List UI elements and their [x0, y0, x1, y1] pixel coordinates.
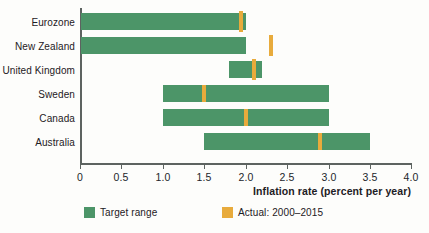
x-tick-label-4-0: 4.0 [391, 171, 429, 183]
marker-actual-sweden [202, 85, 206, 102]
x-tick-3-5 [370, 163, 371, 169]
plot-area: 0 0.5 1.0 1.5 2.0 2.5 3.0 3.5 4.0 Eurozo… [0, 0, 429, 233]
bar-new-zealand [81, 37, 246, 54]
legend-item-target-range: Target range [84, 207, 157, 218]
x-axis-title: Inflation rate (percent per year) [0, 185, 429, 197]
category-label-united-kingdom: United Kingdom [0, 65, 75, 76]
x-tick-label-0-5: 0.5 [101, 171, 141, 183]
legend-swatch-orange-icon [222, 207, 233, 218]
inflation-target-chart: 0 0.5 1.0 1.5 2.0 2.5 3.0 3.5 4.0 Eurozo… [0, 0, 429, 233]
x-tick-0-5 [121, 163, 122, 169]
x-tick-label-1-5: 1.5 [184, 171, 224, 183]
marker-actual-new-zealand [269, 35, 273, 56]
x-tick-2-0 [246, 163, 247, 169]
legend-label-actual: Actual: 2000–2015 [238, 207, 323, 218]
category-label-canada: Canada [0, 113, 75, 124]
category-label-new-zealand: New Zealand [0, 41, 75, 52]
category-label-sweden: Sweden [0, 89, 75, 100]
x-tick-label-2-5: 2.5 [267, 171, 307, 183]
x-tick-1-5 [204, 163, 205, 169]
category-label-eurozone: Eurozone [0, 17, 75, 28]
y-axis-line [80, 8, 82, 163]
x-tick-2-5 [287, 163, 288, 169]
marker-actual-eurozone [239, 11, 243, 32]
x-tick-label-0: 0 [60, 171, 100, 183]
legend-swatch-green-icon [84, 207, 95, 218]
x-tick-label-2-0: 2.0 [226, 171, 266, 183]
chart-legend: Target range Actual: 2000–2015 [0, 206, 429, 222]
marker-actual-united-kingdom [252, 59, 256, 80]
marker-actual-australia [318, 133, 322, 150]
x-tick-0 [80, 163, 81, 169]
legend-item-actual: Actual: 2000–2015 [222, 207, 323, 218]
x-tick-3-0 [329, 163, 330, 169]
marker-actual-canada [244, 109, 248, 126]
x-tick-label-3-5: 3.5 [350, 171, 390, 183]
x-tick-1-0 [163, 163, 164, 169]
x-tick-4-0 [411, 163, 412, 169]
legend-label-target-range: Target range [100, 207, 157, 218]
bar-australia [204, 133, 370, 150]
category-label-australia: Australia [0, 137, 75, 148]
bar-united-kingdom [229, 61, 262, 78]
bar-eurozone [81, 13, 246, 30]
x-tick-label-1-0: 1.0 [143, 171, 183, 183]
bar-sweden [163, 85, 329, 102]
x-tick-label-3-0: 3.0 [309, 171, 349, 183]
